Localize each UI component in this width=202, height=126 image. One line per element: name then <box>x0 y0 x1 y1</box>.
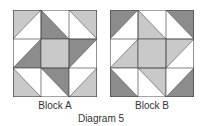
block-b-graphic <box>110 10 194 97</box>
block-a-label: Block A <box>13 100 97 111</box>
quilt-block-b <box>110 10 194 97</box>
block-b-label: Block B <box>110 100 194 111</box>
quilt-block-a <box>13 10 97 97</box>
block-a-graphic <box>13 10 97 97</box>
diagram-caption: Diagram 5 <box>0 113 202 124</box>
